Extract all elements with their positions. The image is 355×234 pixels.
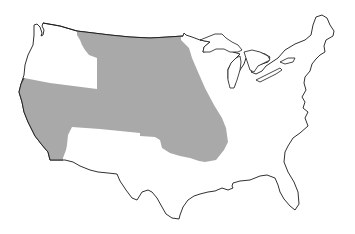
us-map bbox=[0, 0, 355, 234]
us-map-svg bbox=[0, 0, 355, 234]
